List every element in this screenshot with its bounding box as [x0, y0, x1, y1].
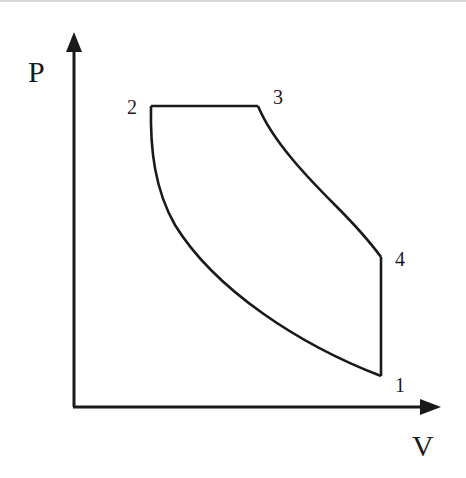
cycle-path	[151, 106, 381, 376]
x-axis-label: V	[412, 429, 434, 462]
point-label-2: 2	[127, 96, 137, 118]
y-axis-label: P	[28, 55, 45, 88]
process-3-4	[258, 106, 381, 257]
x-axis-arrow-icon	[420, 399, 441, 415]
point-label-3: 3	[273, 86, 283, 108]
point-label-4: 4	[395, 248, 405, 270]
process-1-2	[151, 106, 381, 376]
x-axis	[73, 399, 441, 415]
y-axis-arrow-icon	[66, 32, 82, 52]
point-label-1: 1	[395, 374, 405, 396]
pv-diagram: P V 2 3 4 1	[0, 0, 466, 478]
y-axis	[66, 32, 82, 407]
